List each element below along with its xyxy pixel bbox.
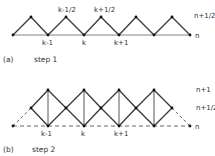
zigzag-step1: [13, 17, 190, 35]
finite-difference-diagram: k-1/2 k+1/2 n+1/2 n k-1 k k+1 (a) step 1: [0, 0, 215, 156]
caption-tag-a: (a): [3, 55, 14, 64]
label-n-plus-half-b: n+1/2: [196, 104, 215, 112]
grid-points-a: [12, 16, 192, 37]
label-n-plus-1: n+1: [196, 86, 211, 94]
left-dashed-edge: [13, 108, 31, 126]
label-k-minus-1-b: k-1: [41, 130, 52, 138]
label-n-plus-half: n+1/2: [194, 12, 215, 20]
right-dashed-edge: [172, 108, 190, 126]
caption-tag-b: (b): [3, 145, 14, 154]
label-k-plus-1: k+1: [114, 39, 128, 47]
grid-points-b: [12, 89, 192, 128]
label-k-plus-1-b: k+1: [114, 130, 128, 138]
label-k-plus-half: k+1/2: [94, 6, 115, 14]
label-k-b: k: [81, 130, 86, 138]
caption-text-b: step 2: [32, 145, 56, 154]
label-n-b: n: [195, 123, 199, 131]
label-k-minus-half: k-1/2: [58, 6, 76, 14]
label-k: k: [82, 39, 87, 47]
lower-zigzag: [31, 108, 172, 126]
upper-zigzag: [31, 90, 172, 108]
label-n: n: [195, 32, 199, 40]
panel-a: k-1/2 k+1/2 n+1/2 n k-1 k k+1 (a) step 1: [3, 6, 215, 64]
label-k-minus-1: k-1: [42, 39, 53, 47]
panel-b: n+1 n+1/2 n k-1 k k+1 (b) step 2: [3, 86, 215, 154]
caption-text-a: step 1: [34, 55, 58, 64]
